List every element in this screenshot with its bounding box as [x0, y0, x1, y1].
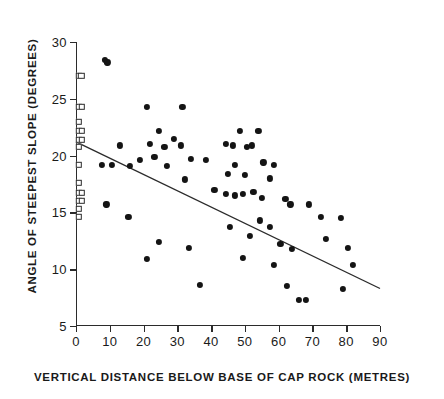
x-tick-50 — [245, 326, 246, 332]
x-tick-label-0: 0 — [72, 334, 80, 349]
y-tick-label-5: 5 — [59, 319, 67, 334]
data-point-square — [79, 136, 85, 142]
data-point-square — [75, 143, 81, 149]
x-tick-80 — [346, 326, 347, 332]
data-point-square — [79, 127, 85, 133]
data-point-square — [78, 73, 84, 79]
data-point-square — [79, 104, 85, 110]
data-point-square — [79, 198, 85, 204]
y-tick-label-15: 15 — [52, 205, 67, 220]
x-tick-20 — [144, 326, 145, 332]
x-tick-label-40: 40 — [203, 334, 218, 349]
y-tick-label-20: 20 — [52, 148, 67, 163]
scatter-plot-figure: 51015202530 0102030405060708090 VERTICAL… — [0, 0, 444, 399]
x-tick-label-30: 30 — [170, 334, 185, 349]
y-tick-label-10: 10 — [52, 262, 67, 277]
x-tick-label-90: 90 — [372, 334, 387, 349]
x-tick-90 — [380, 326, 381, 332]
x-tick-40 — [211, 326, 212, 332]
data-point-square — [75, 180, 81, 186]
data-point-square — [75, 214, 81, 220]
x-tick-label-10: 10 — [102, 334, 117, 349]
y-tick-label-30: 30 — [52, 35, 67, 50]
x-tick-30 — [177, 326, 178, 332]
y-tick-label-25: 25 — [52, 91, 67, 106]
x-tick-0 — [76, 326, 77, 332]
x-tick-60 — [279, 326, 280, 332]
x-tick-label-60: 60 — [271, 334, 286, 349]
regression-line — [76, 42, 380, 326]
y-axis-title: ANGLE OF STEEPEST SLOPE (DEGREES) — [26, 16, 38, 316]
x-tick-10 — [110, 326, 111, 332]
x-tick-label-80: 80 — [339, 334, 354, 349]
data-point-square — [75, 206, 81, 212]
x-tick-label-70: 70 — [305, 334, 320, 349]
x-tick-label-20: 20 — [136, 334, 151, 349]
plot-area: 51015202530 0102030405060708090 — [76, 42, 380, 326]
data-point-square — [75, 118, 81, 124]
x-tick-label-50: 50 — [237, 334, 252, 349]
x-tick-70 — [312, 326, 313, 332]
x-axis-title: VERTICAL DISTANCE BELOW BASE OF CAP ROCK… — [0, 371, 444, 383]
data-point-square — [75, 161, 81, 167]
data-point-square — [79, 190, 85, 196]
